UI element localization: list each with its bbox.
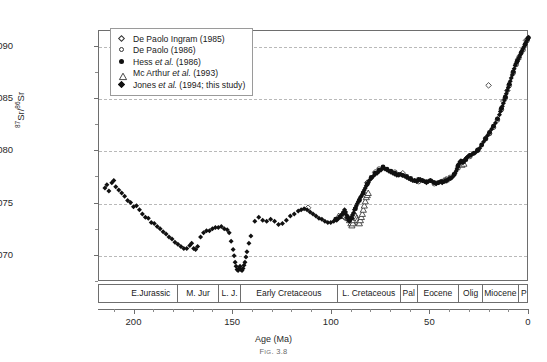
x-axis-label: Age (Ma)	[0, 334, 547, 344]
legend-item-open-triangle: Mc Arthur et al. (1993)	[116, 68, 245, 80]
x-tick-label-200: 200	[114, 316, 154, 327]
legend: De Paolo Ingram (1985)De Paolo (1986)Hes…	[110, 28, 253, 96]
x-minor-tick	[212, 309, 213, 312]
filled-circle-icon	[116, 56, 130, 67]
y-axis-label-end: Sr	[15, 92, 26, 102]
x-minor-tick	[469, 309, 470, 312]
series-open-circle	[377, 38, 530, 186]
caption-rest: . 3.8	[271, 347, 287, 356]
x-minor-tick	[311, 309, 312, 312]
open-circle-icon	[116, 45, 130, 56]
x-minor-tick	[508, 309, 509, 312]
x-minor-tick	[173, 309, 174, 312]
legend-item-label: De Paolo (1986)	[130, 45, 196, 55]
timescale-band-l-j: L. J.	[219, 285, 241, 302]
x-tick-mark	[232, 309, 233, 314]
legend-item-label: Jones et al. (1994; this study)	[130, 80, 245, 90]
x-minor-tick	[390, 309, 391, 312]
x-tick-label-150: 150	[212, 316, 252, 327]
y-tick-label-0.7075: 0.7075	[0, 197, 13, 208]
y-axis-label-sup-86: 86	[14, 101, 21, 108]
y-axis-label-sup-87: 87	[14, 121, 21, 128]
timescale-band-early-cretaceous: Early Cretaceous	[241, 285, 338, 302]
x-minor-tick	[114, 309, 115, 312]
x-tick-mark	[331, 309, 332, 314]
y-tick-label-0.7070: 0.7070	[0, 249, 13, 260]
x-minor-tick	[449, 309, 450, 312]
x-tick-label-50: 50	[409, 316, 449, 327]
open-triangle-icon	[116, 68, 130, 79]
timescale-bands: E.JurassicM. JurL. J.Early CretaceousL. …	[98, 284, 528, 303]
legend-item-open-circle: De Paolo (1986)	[116, 45, 245, 57]
x-tick-mark	[429, 309, 430, 314]
timescale-band-m-jur: M. Jur	[178, 285, 219, 302]
timescale-band-e-jurassic: E.Jurassic	[125, 285, 178, 302]
timescale-band-l-cretaceous: L. Cretaceous	[338, 285, 401, 302]
filled-diamond-icon	[116, 79, 130, 90]
y-tick-label-0.7085: 0.7085	[0, 92, 13, 103]
x-minor-tick	[272, 309, 273, 312]
x-minor-tick	[291, 309, 292, 312]
x-minor-tick	[370, 309, 371, 312]
x-minor-tick	[351, 309, 352, 312]
x-minor-tick	[252, 309, 253, 312]
x-minor-tick	[410, 309, 411, 312]
x-tick-label-0: 0	[508, 316, 547, 327]
x-minor-tick	[489, 309, 490, 312]
figure-caption: FIG. 3.8	[0, 347, 547, 356]
x-minor-tick	[153, 309, 154, 312]
legend-item-filled-circle: Hess et al. (1986)	[116, 56, 245, 68]
y-axis-label-mid: Sr/	[15, 109, 26, 121]
y-tick-label-0.7080: 0.7080	[0, 144, 13, 155]
legend-item-label: Hess et al. (1986)	[130, 57, 201, 67]
timescale-band-p: P	[519, 285, 529, 302]
timescale-band-miocene: Miocene	[483, 285, 519, 302]
timescale-band-pal: Pal	[401, 285, 418, 302]
legend-item-filled-diamond: Jones et al. (1994; this study)	[116, 79, 245, 91]
y-tick-label-0.7090: 0.7090	[0, 40, 13, 51]
figure-container: 87Sr/86Sr 0.70900.70850.70800.70750.7070…	[0, 0, 547, 362]
x-axis-line	[98, 309, 528, 310]
timescale-band-olig: Olig	[459, 285, 483, 302]
legend-item-label: De Paolo Ingram (1985)	[130, 34, 225, 44]
x-tick-label-100: 100	[311, 316, 351, 327]
x-tick-mark	[528, 309, 529, 314]
series-open-triangle	[336, 161, 467, 228]
open-diamond-icon	[116, 33, 130, 44]
legend-item-label: Mc Arthur et al. (1993)	[130, 68, 218, 78]
x-minor-tick	[193, 309, 194, 312]
x-tick-mark	[134, 309, 135, 314]
timescale-band-eocene: Eocene	[418, 285, 460, 302]
y-axis-label: 87Sr/86Sr	[14, 114, 26, 128]
legend-item-open-diamond: De Paolo Ingram (1985)	[116, 33, 245, 45]
y-minor-tick	[95, 281, 98, 282]
